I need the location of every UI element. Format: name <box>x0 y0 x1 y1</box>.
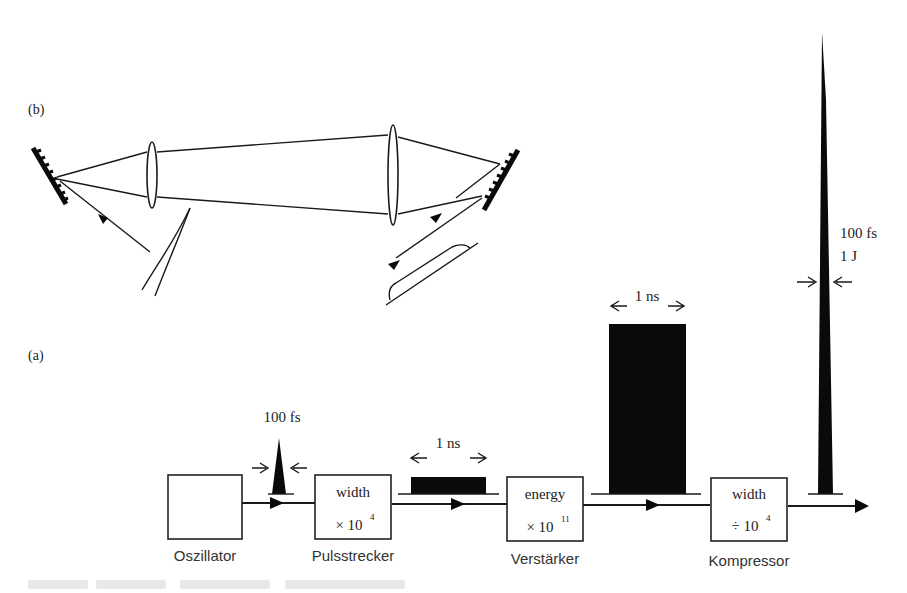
input-beam-arrow <box>60 181 150 252</box>
pulse-width-label: 100 fs <box>263 409 300 425</box>
stage-factor: × 10 <box>335 517 362 533</box>
width-arrow-right-icon <box>291 463 307 473</box>
stage-function: width <box>336 484 371 500</box>
pulse-width-label: 1 ns <box>635 288 660 304</box>
cpa-diagram: (b) <box>0 0 907 593</box>
beam-arrow-3 <box>646 499 660 511</box>
stage-label: Verstärker <box>511 550 579 567</box>
width-arrow-left-icon <box>797 277 816 287</box>
width-arrow-right-icon <box>834 277 852 287</box>
lens-1-icon <box>147 142 157 208</box>
stage-factor-exponent: 4 <box>766 513 771 523</box>
stage-pulse-stretcher: width × 10 4 Pulsstrecker <box>312 475 395 564</box>
pulse-width-label: 1 ns <box>436 435 461 451</box>
width-arrow-left-icon <box>611 301 627 311</box>
width-arrow-left-icon <box>252 463 268 473</box>
stage-factor-exponent: 11 <box>561 514 570 524</box>
beam-arrow-1 <box>270 497 284 509</box>
return-beam-arrowhead <box>430 213 442 223</box>
pulse-amplified: 1 ns <box>591 288 701 494</box>
stage-compressor: width ÷ 10 4 Kompressor <box>709 478 790 569</box>
width-arrow-right-icon <box>668 301 684 311</box>
right-grating-icon <box>484 150 518 210</box>
panel-a-label: (a) <box>28 348 44 364</box>
cropped-caption <box>0 578 907 593</box>
stage-function: width <box>732 486 767 502</box>
stage-label: Pulsstrecker <box>312 547 395 564</box>
stretcher-beams <box>57 135 500 214</box>
stage-label: Oszillator <box>174 547 237 564</box>
stage-factor-exponent: 4 <box>370 512 375 522</box>
pulse-energy-label: 1 J <box>840 248 857 264</box>
stage-oscillator: Oszillator <box>168 475 242 564</box>
output-beam-arrow <box>388 198 482 270</box>
width-arrow-left-icon <box>411 453 427 463</box>
pulse-width-label: 100 fs <box>840 225 877 241</box>
pulse-oscillator-output: 100 fs <box>252 409 307 494</box>
lens-2-icon <box>388 125 398 225</box>
stage-factor: ÷ 10 <box>732 518 759 534</box>
stage-amplifier: energy × 10 11 Verstärker <box>507 477 583 567</box>
pulse-stretched: 1 ns <box>398 435 499 494</box>
output-pulse-sketch <box>386 243 478 305</box>
stage-function: energy <box>525 486 566 502</box>
pulse-compressed: 100 fs 1 J <box>797 32 877 494</box>
beam-arrow-output <box>855 499 869 513</box>
stage-label: Kompressor <box>709 552 790 569</box>
beam-arrow-2 <box>451 498 465 510</box>
stage-factor: × 10 <box>526 519 553 535</box>
panel-b-label: (b) <box>28 102 45 118</box>
width-arrow-right-icon <box>470 453 486 463</box>
